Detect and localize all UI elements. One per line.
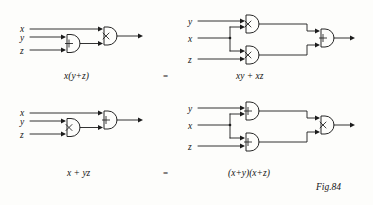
input-label-y: y (187, 17, 193, 27)
figure-canvas: x y z y x z x y z y x z x(y+z) = xy + xz… (0, 0, 373, 205)
or-gate-out (319, 29, 334, 47)
input-arrow-y (61, 35, 66, 40)
and-gate-top (245, 15, 259, 33)
input-arrow-z (61, 48, 66, 53)
and-gate (103, 27, 117, 45)
expression-r1-right: xy + xz (235, 71, 264, 81)
input-arrow-y (61, 119, 66, 124)
input-label-y: y (187, 104, 193, 114)
circuit-r2-right (198, 102, 355, 151)
input-arrow-y (240, 106, 245, 111)
expression-r2-left: x + yz (66, 168, 91, 178)
input-arrow-z (61, 132, 66, 137)
input-label-x: x (187, 121, 193, 131)
input-arrow-z (240, 144, 245, 149)
x-branch-arrow-top (240, 112, 245, 117)
input-arrow-x (98, 111, 103, 116)
expression-r2-right: (x+y)(x+z) (228, 168, 270, 179)
figure-caption: Fig.84 (315, 182, 341, 192)
or-top-out-arrow (315, 116, 320, 121)
and-gate-out (320, 116, 334, 134)
x-branch-arrow-bottom (240, 136, 245, 141)
input-label-x: x (187, 34, 193, 44)
circuit-r1-left (30, 27, 143, 53)
and-bottom-out-arrow (315, 43, 320, 48)
input-label-y: y (19, 33, 25, 43)
input-label-z: z (187, 55, 192, 65)
input-label-z: z (187, 142, 192, 152)
equality-sign-r1: = (163, 71, 168, 81)
input-arrow-z (240, 57, 245, 62)
junction-dot (229, 124, 232, 127)
junction-dot (229, 37, 232, 40)
and-gate-bottom (245, 46, 259, 64)
x-branch-arrow-top (240, 25, 245, 30)
or-gate-bottom (244, 133, 259, 151)
and-top-out-arrow (315, 29, 320, 34)
or-gate (65, 35, 80, 53)
or-bottom-out-arrow (315, 130, 320, 135)
circuit-r1-right (198, 15, 355, 64)
x-branch-arrow-bottom (240, 49, 245, 54)
and-gate (66, 119, 80, 137)
or-out-arrow (98, 41, 103, 46)
or-gate (102, 111, 117, 129)
output-arrow (138, 34, 143, 39)
input-arrow-x (98, 27, 103, 32)
input-label-y: y (19, 117, 25, 127)
circuit-r2-left (30, 111, 143, 137)
input-label-z: z (19, 46, 24, 56)
output-arrow (138, 118, 143, 123)
output-arrow (350, 123, 355, 128)
equality-sign-r2: = (163, 168, 168, 178)
output-arrow (350, 36, 355, 41)
input-label-z: z (19, 130, 24, 140)
or-gate-top (244, 102, 259, 120)
expression-r1-left: x(y+z) (63, 71, 89, 82)
circuit-diagram-svg: x y z y x z x y z y x z x(y+z) = xy + xz… (0, 0, 373, 205)
and-out-arrow (98, 125, 103, 130)
input-arrow-y (240, 19, 245, 24)
